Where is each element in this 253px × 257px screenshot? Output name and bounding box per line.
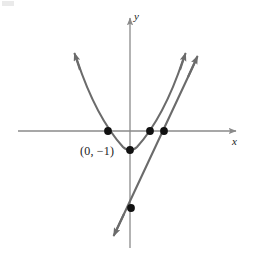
axes-group <box>18 18 236 248</box>
line-lower-arrow-icon <box>114 214 124 236</box>
coordinate-plane-svg <box>0 0 253 257</box>
line-segment <box>116 60 196 231</box>
parabola-right-arrow-icon <box>180 53 186 70</box>
point-parabola-vertex <box>126 146 134 154</box>
x-axis-label: x <box>232 135 237 147</box>
point-parabola-right-x-intercept <box>146 127 154 135</box>
y-axis-label: y <box>134 10 139 22</box>
graph-figure: y x (0, −1) <box>0 0 253 257</box>
point-line-x-intercept <box>160 127 168 135</box>
point-parabola-left-x-intercept <box>104 127 112 135</box>
point-line-y-intercept <box>127 204 135 212</box>
parabola-left-arrow-icon <box>74 53 80 70</box>
vertex-point-label: (0, −1) <box>80 144 114 159</box>
straight-line-curve <box>114 56 198 236</box>
line-upper-arrow-icon <box>188 56 198 77</box>
